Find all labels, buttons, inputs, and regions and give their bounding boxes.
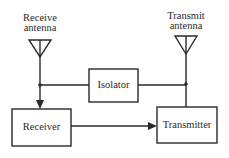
arrow-right-icon — [148, 122, 157, 130]
receive-antenna-label-line2: antenna — [18, 23, 62, 33]
transmit-antenna-icon — [175, 36, 197, 54]
receiver-label: Receiver — [12, 121, 71, 133]
transmit-junction-dot — [184, 82, 188, 86]
transmit-antenna-label-line2: antenna — [162, 21, 210, 31]
transmit-antenna-label: Transmit antenna — [162, 11, 210, 31]
receive-antenna-icon — [29, 40, 51, 57]
receive-junction-dot — [38, 83, 42, 87]
arrow-down-icon — [36, 100, 44, 109]
receive-antenna-label: Receive antenna — [18, 13, 62, 33]
transmitter-label: Transmitter — [157, 119, 217, 131]
isolator-label: Isolator — [89, 79, 138, 91]
